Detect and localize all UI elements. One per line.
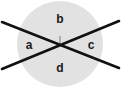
vertical-angles-figure: b a c d: [0, 0, 121, 90]
angle-label-d: d: [56, 61, 63, 75]
angle-label-a: a: [26, 38, 33, 52]
angle-label-b: b: [56, 12, 63, 26]
angle-label-c: c: [88, 38, 95, 52]
diagram-canvas: b a c d: [0, 0, 121, 90]
